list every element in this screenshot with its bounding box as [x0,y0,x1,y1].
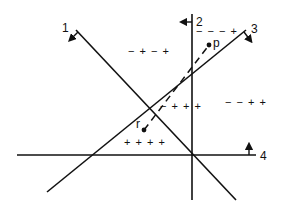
region-sign-label: − − + + [225,96,267,108]
point-p [207,43,212,48]
line-1-label: 1 [62,21,69,35]
region-sign-label: − + + + [160,100,202,112]
point-r [142,128,147,133]
point-r-label: r [136,117,140,131]
line-4-label: 4 [260,149,267,163]
line-1-orientation-arrow-icon [71,32,78,39]
dashed-segment-layer [144,45,209,130]
line-3-label: 3 [251,22,258,36]
region-sign-label: + + + + [124,136,166,148]
point-p-label: p [213,36,220,50]
region-sign-label: − − − + [196,25,238,37]
dashed-segment-r-p [144,45,209,130]
line-arrangement-diagram: 1234 pr − + − +− − − +− + + +− − + ++ + … [0,0,284,212]
region-sign-label: − + − + [128,45,170,57]
line-3-orientation-arrow-icon [244,32,250,40]
